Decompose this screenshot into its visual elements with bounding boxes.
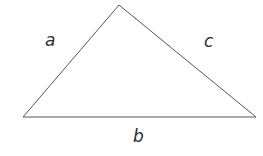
- side-label-c: c: [204, 33, 213, 50]
- triangle-outline: [23, 5, 256, 117]
- triangle-figure-canvas: a c b: [0, 0, 263, 156]
- side-label-a: a: [45, 32, 55, 49]
- triangle-shape: [0, 0, 263, 156]
- side-label-b: b: [133, 128, 144, 145]
